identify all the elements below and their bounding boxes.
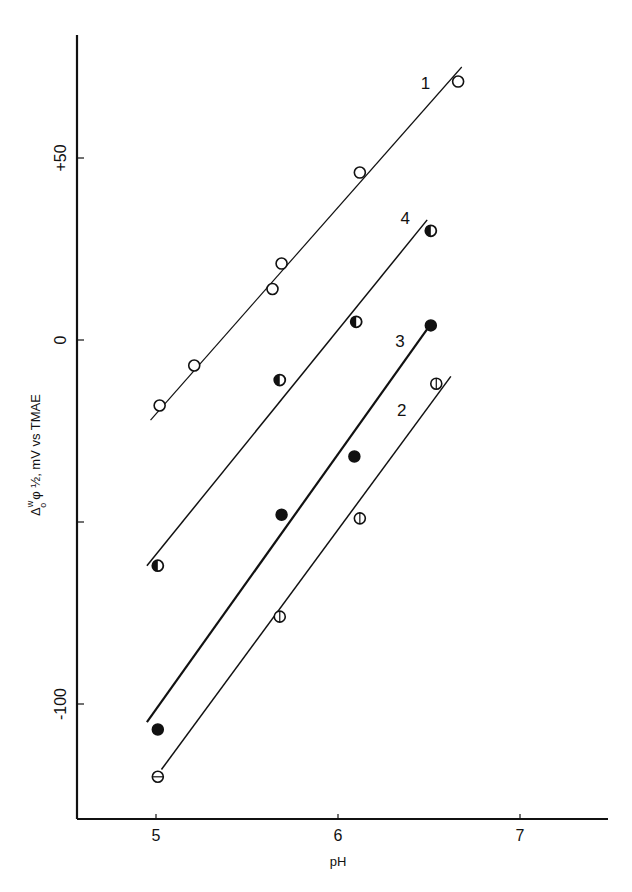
- chart-figure: 1432 +500-100 567 pH Δwoφ ½, mV vs TMAE: [0, 0, 632, 892]
- data-point-half-filled-circle: [274, 375, 285, 386]
- data-point-filled-circle: [349, 451, 360, 462]
- data-point-barred-circle: [152, 771, 163, 782]
- y-axis-title: Δwoφ ½, mV vs TMAE: [25, 394, 48, 516]
- plot-area: 1432: [147, 67, 464, 782]
- series-2: 2: [152, 376, 451, 782]
- data-point-open-circle: [354, 167, 365, 178]
- fit-line: [161, 376, 450, 769]
- x-tick-label: 5: [152, 827, 161, 844]
- data-point-open-circle: [154, 400, 165, 411]
- y-title-rest: φ ½, mV vs TMAE: [28, 394, 43, 500]
- x-tick-label: 6: [334, 827, 343, 844]
- data-point-barred-circle: [274, 611, 285, 622]
- y-tick-label: 0: [52, 335, 69, 344]
- data-point-filled-circle: [152, 724, 163, 735]
- data-point-half-filled-circle: [152, 560, 163, 571]
- data-point-barred-circle: [431, 378, 442, 389]
- data-point-filled-circle: [276, 509, 287, 520]
- y-title-sub: o: [38, 503, 48, 508]
- y-title-sup: w: [25, 500, 35, 508]
- data-point-half-filled-circle: [351, 316, 362, 327]
- data-point-open-circle: [453, 76, 464, 87]
- data-point-filled-circle: [425, 320, 436, 331]
- x-axis: 567: [77, 814, 608, 844]
- svg-text:Δwoφ ½, mV vs TMAE: Δwoφ ½, mV vs TMAE: [25, 394, 48, 516]
- series-label: 3: [395, 332, 404, 351]
- series-label: 4: [401, 209, 410, 228]
- series-3: 3: [147, 320, 436, 735]
- y-axis: +500-100: [52, 35, 84, 819]
- x-axis-title: pH: [330, 854, 347, 869]
- data-point-open-circle: [267, 284, 278, 295]
- data-point-open-circle: [276, 258, 287, 269]
- data-point-open-circle: [189, 360, 200, 371]
- series-4: 4: [147, 209, 436, 572]
- series-label: 1: [421, 74, 430, 93]
- data-point-half-filled-circle: [425, 225, 436, 236]
- y-tick-label: +50: [52, 144, 69, 171]
- y-tick-label: -100: [52, 688, 69, 720]
- data-point-barred-circle: [354, 513, 365, 524]
- fit-line: [147, 329, 427, 722]
- x-tick-label: 7: [516, 827, 525, 844]
- series-label: 2: [397, 401, 406, 420]
